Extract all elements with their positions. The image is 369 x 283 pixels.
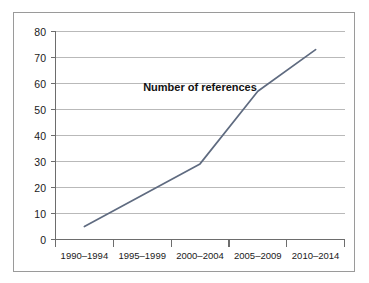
y-tick-label-20: 20 [34,182,46,194]
y-tick-label-40: 40 [34,130,46,142]
gridlines-group [56,32,345,214]
x-tick-label-2005-2009: 2005–2009 [234,250,282,261]
chart-title: Number of references [143,81,257,93]
y-tick-label-0: 0 [40,234,46,246]
x-tick-label-2010-2014: 2010–2014 [292,250,340,261]
y-tick-label-60: 60 [34,78,46,90]
x-tick-label-1995-1999: 1995–1999 [118,250,166,261]
line-chart-svg: 80 70 60 50 40 30 20 10 0 [14,13,356,273]
data-line-number-of-references [84,50,315,227]
x-tick-label-2000-2004: 2000–2004 [176,250,224,261]
chart-frame: 80 70 60 50 40 30 20 10 0 [13,12,355,272]
y-tick-label-50: 50 [34,104,46,116]
y-tick-label-80: 80 [34,26,46,38]
x-axis: 1990–1994 1995–1999 2000–2004 2005–2009 … [56,240,345,262]
y-tick-label-70: 70 [34,52,46,64]
data-series-group [84,50,315,227]
x-tick-label-1990-1994: 1990–1994 [61,250,109,261]
y-tick-label-30: 30 [34,156,46,168]
y-axis: 80 70 60 50 40 30 20 10 0 [34,26,55,246]
y-tick-label-10: 10 [34,208,46,220]
figure-container: 80 70 60 50 40 30 20 10 0 [0,0,369,283]
plot-area: 80 70 60 50 40 30 20 10 0 [14,13,356,273]
